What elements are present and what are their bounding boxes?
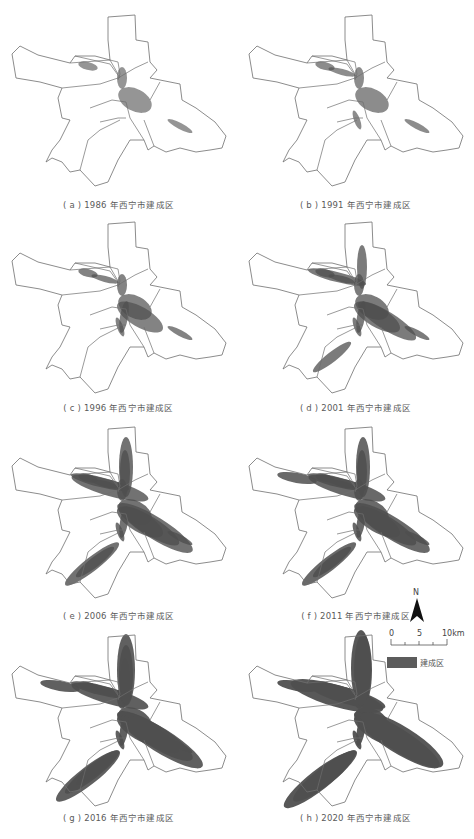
caption-h: ( h ) 2020 年西宁市建成区 [237,811,474,823]
map-1996 [0,207,237,407]
built-up-swatch [387,657,417,668]
map-1986 [0,0,237,200]
north-arrow-icon [409,598,425,622]
built-up-area [69,469,150,506]
north-label: N [413,588,419,597]
district-boundary [327,100,363,108]
city-boundary [12,15,226,186]
district-boundary [299,285,355,295]
district-boundary [387,82,397,100]
district-boundary [387,494,397,512]
built-up-area [328,65,357,78]
district-boundary [62,285,118,295]
district-boundary [80,327,120,377]
district-boundary [144,120,154,146]
built-up-area [357,245,367,289]
built-up-area [166,324,194,342]
map-2006 [0,412,237,612]
scale-label-10km: 10km [442,629,465,638]
built-up-area [278,745,360,815]
map-2001 [237,207,474,407]
district-boundary [150,702,160,720]
built-up-area [61,538,123,591]
city-boundary [249,15,463,186]
map-2011 [237,412,474,612]
district-boundary [150,289,160,307]
built-up-area [310,338,354,375]
built-up-area [166,117,194,135]
district-boundary [299,78,355,88]
scale-bar [390,639,450,647]
map-2016 [0,620,237,820]
district-boundary [62,78,118,88]
scale-labels: 0 5 10km [389,629,469,639]
built-up-area [298,538,360,591]
district-boundary [100,118,126,122]
district-boundary [381,120,391,146]
built-up-area [306,469,387,506]
caption-g: ( g ) 2016 年西宁市建成区 [0,811,237,823]
built-up-area [403,117,431,135]
district-boundary [150,494,160,512]
district-boundary [90,100,126,108]
district-boundary [80,120,120,170]
map-1991 [237,0,474,200]
district-boundary [317,120,357,170]
built-up-area [69,677,150,714]
district-boundary [150,82,160,100]
scale-label-0: 0 [389,629,394,638]
district-boundary [387,702,397,720]
district-boundary [387,289,397,307]
built-up-label: 建成区 [420,657,444,668]
built-up-area [91,272,120,285]
map-legend: N 0 5 10km 建成区 [385,588,474,668]
scale-label-5: 5 [417,629,422,638]
built-up-area [111,703,209,776]
